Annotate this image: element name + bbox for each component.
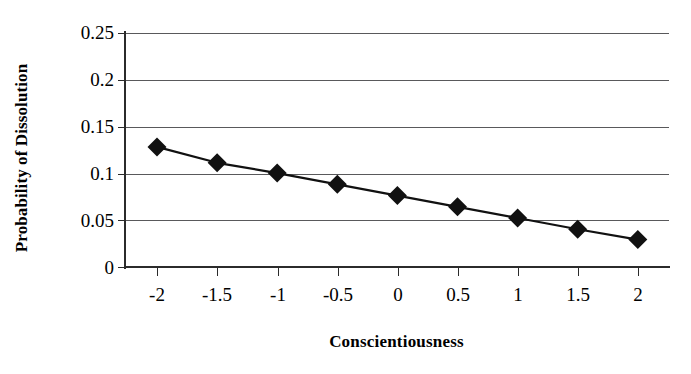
y-tick-label: 0.05 [54,211,114,230]
gridline [124,80,669,81]
x-tick-mark [217,268,218,276]
x-tick-mark [157,268,158,276]
x-tick-label: -1 [248,285,308,305]
y-tick-label: 0.1 [54,164,114,183]
y-axis-tick-labels: 0.25 0.2 0.15 0.1 0.05 0 [50,0,114,374]
y-axis-line [124,31,126,269]
plot-area [124,33,669,267]
x-tick-mark [518,268,519,276]
x-tick-label: 1 [488,285,548,305]
x-tick-mark [458,268,459,276]
x-tick-mark [398,268,399,276]
x-tick-label: 1.5 [548,285,608,305]
x-tick-label: 2 [608,285,668,305]
y-tick-label: 0.15 [54,117,114,136]
x-tick-mark [578,268,579,276]
x-tick-label: -2 [127,285,187,305]
gridline [124,220,669,221]
y-axis-title: Probability of Dissolution [12,28,32,288]
x-tick-label: 0 [368,285,428,305]
x-axis-line [124,266,670,268]
x-tick-label: -1.5 [187,285,247,305]
chart-figure: Probability of Dissolution 0.25 0.2 0.15… [0,0,691,374]
y-tick-label: 0.2 [54,70,114,89]
gridline [124,174,669,175]
y-tick-label: 0.25 [54,23,114,42]
x-tick-label: -0.5 [308,285,368,305]
gridline [124,33,669,34]
y-tick-label: 0 [54,258,114,277]
gridline [124,127,669,128]
x-tick-label: 0.5 [428,285,488,305]
x-tick-mark [638,268,639,276]
x-axis-title: Conscientiousness [124,332,669,352]
x-tick-mark [278,268,279,276]
x-tick-mark [338,268,339,276]
